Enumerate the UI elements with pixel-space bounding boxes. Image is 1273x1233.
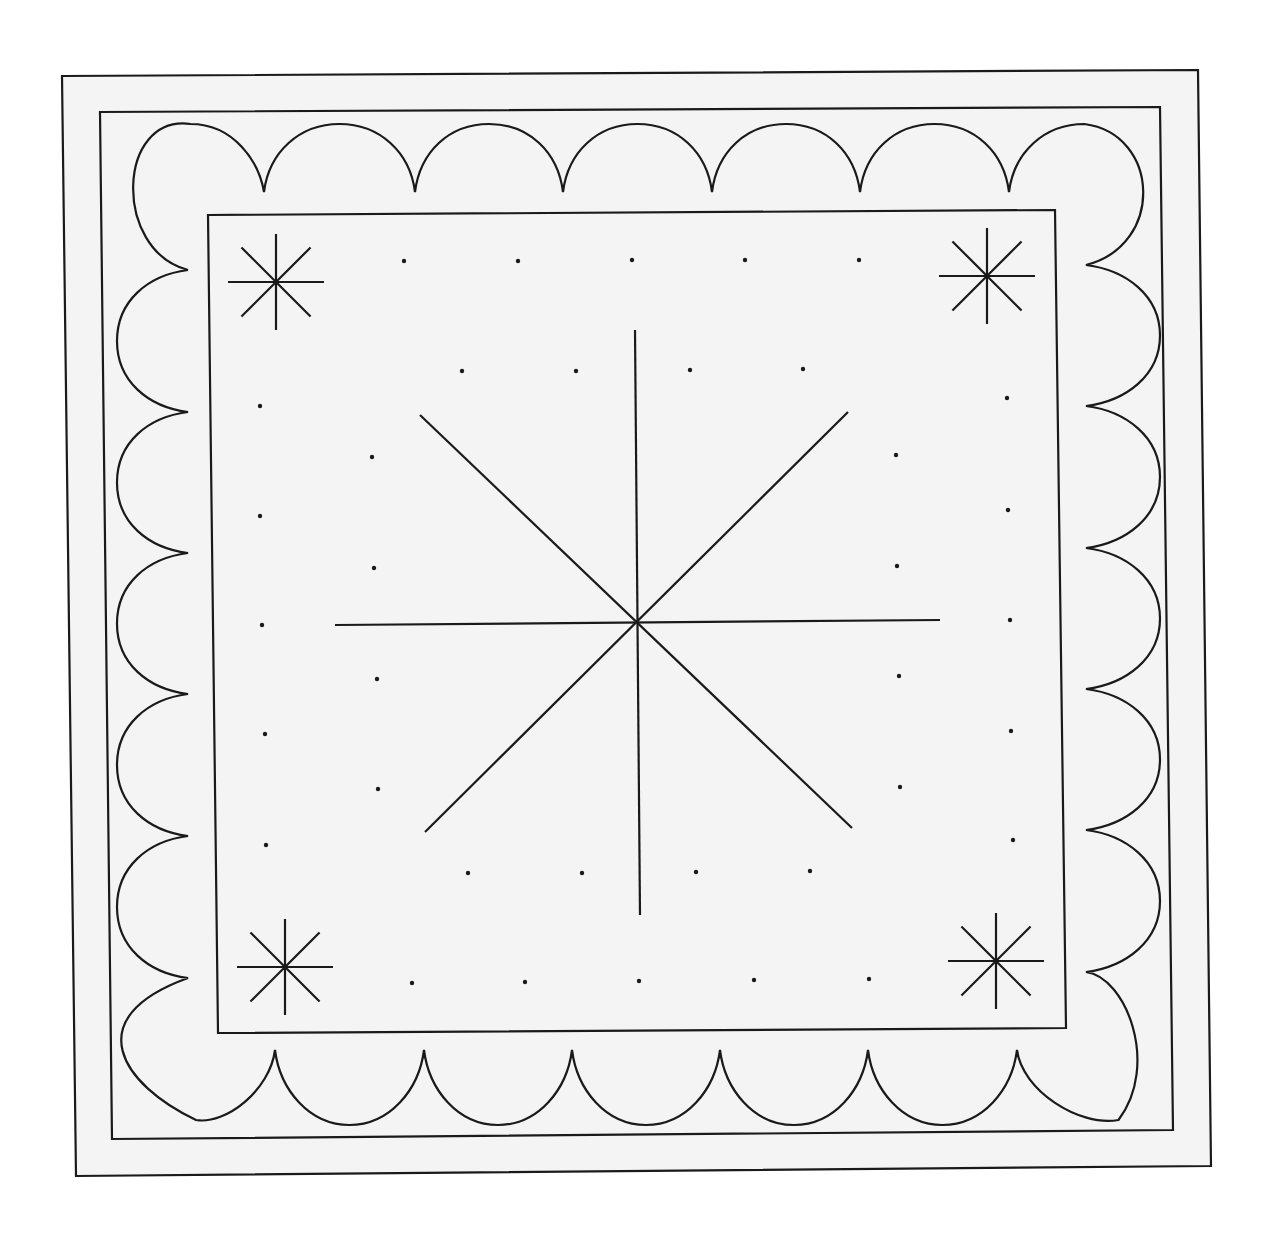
quilt-pattern-canvas bbox=[0, 0, 1273, 1233]
quilting-dot bbox=[897, 674, 901, 678]
quilting-dot bbox=[1009, 729, 1013, 733]
quilting-dot bbox=[694, 870, 698, 874]
quilt-pattern-drawing bbox=[0, 0, 1273, 1233]
quilting-dot bbox=[370, 455, 374, 459]
quilting-dot bbox=[1005, 396, 1009, 400]
quilting-dot bbox=[898, 785, 902, 789]
quilting-dot bbox=[1006, 508, 1010, 512]
quilting-dot bbox=[258, 514, 262, 518]
quilting-dot bbox=[743, 258, 747, 262]
quilting-dot bbox=[1008, 618, 1012, 622]
quilting-dot bbox=[516, 259, 520, 263]
quilting-dot bbox=[688, 368, 692, 372]
corner-star-icon-top-right bbox=[939, 228, 1035, 324]
quilting-dot bbox=[867, 977, 871, 981]
quilting-dot bbox=[263, 732, 267, 736]
quilting-dot bbox=[376, 787, 380, 791]
quilting-dot bbox=[466, 871, 470, 875]
quilting-dot bbox=[808, 869, 812, 873]
quilting-dot bbox=[630, 258, 634, 262]
quilting-dot bbox=[801, 367, 805, 371]
corner-star-icon-bottom-left bbox=[237, 919, 333, 1015]
quilting-dot bbox=[410, 981, 414, 985]
quilting-dot bbox=[523, 980, 527, 984]
quilting-dot bbox=[894, 453, 898, 457]
corner-star-icon-bottom-right bbox=[948, 913, 1044, 1009]
quilting-dot bbox=[580, 871, 584, 875]
corner-star-icon-top-left bbox=[228, 234, 324, 330]
quilting-dot bbox=[574, 369, 578, 373]
quilting-dot bbox=[1011, 838, 1015, 842]
quilting-dot bbox=[857, 258, 861, 262]
quilting-dot bbox=[895, 564, 899, 568]
quilting-dot bbox=[637, 979, 641, 983]
quilting-dot bbox=[258, 404, 262, 408]
quilting-dot bbox=[264, 843, 268, 847]
quilting-dot bbox=[375, 677, 379, 681]
quilting-dot bbox=[402, 259, 406, 263]
quilting-dot bbox=[752, 978, 756, 982]
quilting-dot bbox=[460, 369, 464, 373]
quilting-dot bbox=[372, 566, 376, 570]
quilting-dot bbox=[260, 623, 264, 627]
